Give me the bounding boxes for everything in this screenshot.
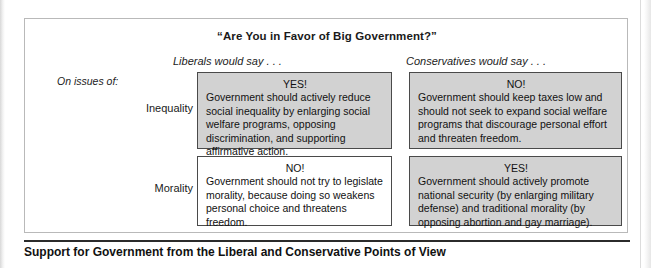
cell-body-text: Government should keep taxes low and sho… bbox=[418, 91, 614, 145]
figure-caption: Support for Government from the Liberal … bbox=[24, 245, 630, 259]
cell-conservatives-inequality: NO! Government should keep taxes low and… bbox=[409, 72, 622, 149]
cell-body-text: Government should actively promote natio… bbox=[418, 175, 614, 229]
caption-divider-rule bbox=[24, 240, 630, 242]
row-label-morality: Morality bbox=[45, 182, 193, 194]
page-edge-shadow-right bbox=[644, 0, 651, 268]
column-header-conservatives: Conservatives would say . . . bbox=[406, 55, 546, 67]
column-header-liberals: Liberals would say . . . bbox=[173, 55, 282, 67]
figure-title: “Are You in Favor of Big Government?” bbox=[25, 30, 629, 42]
row-axis-label: On issues of: bbox=[57, 75, 118, 87]
cell-liberals-morality: NO! Government should not try to legisla… bbox=[197, 156, 392, 226]
cell-conservatives-morality: YES! Government should actively promote … bbox=[409, 156, 622, 226]
cell-answer-label: NO! bbox=[206, 162, 384, 175]
row-label-inequality: Inequality bbox=[45, 102, 193, 114]
cell-body-text: Government should not try to legislate m… bbox=[206, 175, 384, 229]
page-gutter-divider bbox=[640, 0, 641, 268]
figure-container: “Are You in Favor of Big Government?” Li… bbox=[24, 18, 628, 233]
cell-liberals-inequality: YES! Government should actively reduce s… bbox=[197, 72, 392, 149]
cell-body-text: Government should actively reduce social… bbox=[206, 91, 384, 158]
cell-answer-label: YES! bbox=[206, 78, 384, 91]
cell-answer-label: YES! bbox=[418, 162, 614, 175]
page-edge-shadow-left bbox=[0, 0, 5, 268]
cell-answer-label: NO! bbox=[418, 78, 614, 91]
